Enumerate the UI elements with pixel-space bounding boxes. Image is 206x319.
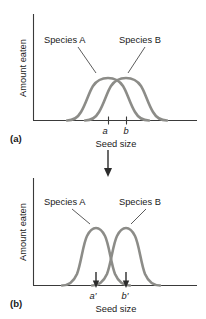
tick-label-a: a — [102, 126, 107, 136]
panel-label-b: (b) — [10, 298, 22, 309]
leader-species-b-panel-a — [128, 47, 145, 73]
leader-species-a-panel-a — [78, 47, 96, 73]
label-species-a-panel-a: Species A — [44, 35, 86, 45]
panel-b: Species A Species B a′ b′ Seed size Amou… — [0, 160, 206, 319]
leader-species-b-panel-b — [131, 209, 146, 224]
label-species-b-panel-a: Species B — [119, 35, 161, 45]
leader-species-a-panel-b — [72, 209, 90, 224]
character-displacement-figure: Species A Species B a b Seed size Amount… — [0, 0, 206, 319]
curve-species-a-panel-a — [67, 78, 149, 121]
panel-label-a: (a) — [10, 133, 22, 144]
panel-a-plot: Species A Species B a b Seed size Amount… — [0, 0, 206, 160]
label-species-b-panel-b: Species B — [119, 197, 161, 207]
x-axis-label-b: Seed size — [96, 304, 137, 314]
panel-b-plot: Species A Species B a′ b′ Seed size Amou… — [0, 160, 206, 319]
panel-a: Species A Species B a b Seed size Amount… — [0, 0, 206, 160]
curve-species-b-panel-a — [85, 78, 167, 121]
tick-label-a-prime: a′ — [90, 291, 97, 301]
tick-label-b: b — [123, 126, 128, 136]
tick-label-b-prime: b′ — [122, 291, 129, 301]
x-axis-label-a: Seed size — [96, 139, 137, 149]
y-axis-label-a: Amount eaten — [18, 39, 28, 97]
label-species-a-panel-b: Species A — [44, 197, 86, 207]
y-axis-label-b: Amount eaten — [18, 203, 28, 261]
